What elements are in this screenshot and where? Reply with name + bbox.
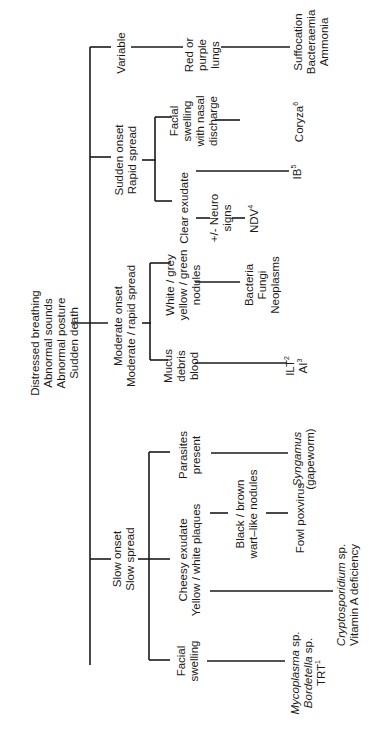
footnote: 1 [314, 660, 321, 664]
root-line: Distressed breathing [29, 290, 42, 395]
label-line: Slow onset [111, 527, 124, 590]
label-line: Clear exudate [178, 172, 191, 244]
fowl-poxvirus-label: Fowl poxvirus [294, 483, 307, 553]
root-line: Sudden death [68, 290, 81, 395]
neuro-signs-label: +/- Neuro signs [208, 194, 234, 242]
cheesy-exudate-label: Cheesy exudate Yellow / white plaques [177, 504, 203, 617]
label-line: Syngamus [291, 428, 304, 489]
cause-suffix: sp. [302, 638, 314, 657]
label-line: swelling [188, 641, 201, 682]
label-line: Rapid spread [126, 125, 139, 196]
label-line: Fungi [256, 256, 269, 314]
label-line: signs [221, 194, 234, 242]
label-line: Cryptosporidium sp. [335, 544, 348, 646]
label-line: Moderate onset [112, 265, 125, 387]
label-line: Parasites [177, 431, 190, 479]
label-line: Fowl poxvirus [294, 483, 307, 553]
slow-onset-label: Slow onset Slow spread [111, 527, 137, 590]
label-line: Mucus [162, 349, 175, 383]
cause-text: Coryza [293, 106, 305, 142]
moderate-onset-label: Moderate onset Moderate / rapid spread [112, 265, 138, 387]
cause-text: IB [291, 169, 303, 180]
label-line: Mycoplasma sp. [289, 631, 302, 714]
ilt-ai-label: ILT2 AI3 [284, 356, 310, 376]
label-line: AI3 [297, 356, 310, 376]
clear-exudate-label: Clear exudate [178, 172, 191, 244]
label-line: Suffocation [292, 10, 305, 75]
label-line: with nasal [194, 95, 207, 146]
label-line: Coryza6 [293, 102, 306, 142]
label-line: (gapeworm) [304, 428, 317, 489]
cause-suffix: sp. [335, 544, 347, 563]
cause-text: ILT [284, 360, 296, 376]
label-line: discharge [207, 95, 220, 146]
black-brown-nodules-label: Black / brown wart–like nodules [234, 470, 260, 559]
label-line: Bacteria [243, 256, 256, 314]
label-line: Vitamin A deficiency [348, 544, 361, 646]
footnote: 6 [292, 102, 299, 106]
label-line: Variable [115, 32, 128, 73]
cause-text: TRT [315, 664, 327, 686]
root-symptoms: Distressed breathing Abnormal sounds Abn… [29, 290, 81, 395]
label-line: blood [188, 349, 201, 383]
footnote: 2 [283, 356, 290, 360]
root-line: Abnormal posture [55, 290, 68, 395]
label-line: Facial [168, 95, 181, 146]
label-line: Ammonia [318, 10, 331, 75]
facial-nasal-label: Facial swelling with nasal discharge [168, 95, 220, 146]
cause-suffix: sp. [289, 631, 301, 650]
label-line: Cheesy exudate [177, 504, 190, 617]
label-line: Moderate / rapid spread [125, 265, 138, 387]
label-line: ILT2 [284, 356, 297, 376]
cause-text: NDV [248, 209, 260, 233]
label-line: Slow spread [124, 527, 137, 590]
label-line: lungs [209, 38, 222, 73]
label-line: wart–like nodules [247, 470, 260, 559]
ndv-label: NDV4 [248, 205, 261, 233]
nodules-label: White / grey yellow / green nodules [164, 250, 203, 321]
mucus-label: Mucus debris blood [162, 349, 201, 383]
bacteria-fungi-label: Bacteria Fungi Neoplasms [243, 256, 282, 314]
mycoplasma-label: Mycoplasma sp. Bordetella sp. TRT1 [289, 631, 328, 714]
label-line: Neoplasms [269, 256, 282, 314]
label-line: NDV4 [248, 205, 261, 233]
label-line: IB5 [291, 165, 304, 180]
label-line: Facial [175, 641, 188, 682]
label-line: Bacteraemia [305, 10, 318, 75]
facial-swelling-label: Facial swelling [175, 641, 201, 682]
label-line: swelling [181, 95, 194, 146]
cause-text: Mycoplasma [289, 650, 301, 715]
footnote: 4 [247, 205, 254, 209]
parasites-label: Parasites present [177, 431, 203, 479]
label-line: Bordetella sp. [302, 631, 315, 714]
label-line: Sudden onset [113, 125, 126, 196]
label-line: Red or [183, 38, 196, 73]
crypto-vita-label: Cryptosporidium sp. Vitamin A deficiency [335, 544, 361, 646]
label-line: present [190, 431, 203, 479]
variable-label: Variable [115, 32, 128, 73]
variable-causes: Suffocation Bacteraemia Ammonia [292, 10, 331, 75]
red-purple-lungs-label: Red or purple lungs [183, 38, 222, 73]
label-line: debris [175, 349, 188, 383]
cause-text: Cryptosporidium [335, 562, 347, 646]
root-line: Abnormal sounds [42, 290, 55, 395]
ib-label: IB5 [291, 165, 304, 180]
label-line: Yellow / white plaques [190, 504, 203, 617]
label-line: nodules [190, 250, 203, 321]
sudden-onset-label: Sudden onset Rapid spread [113, 125, 139, 196]
label-line: purple [196, 38, 209, 73]
label-line: +/- Neuro [208, 194, 221, 242]
syngamus-label: Syngamus (gapeworm) [291, 428, 317, 489]
footnote: 5 [290, 165, 297, 169]
label-line: TRT1 [315, 631, 328, 714]
cause-text: Bordetella [302, 656, 314, 708]
cause-text: AI [297, 363, 309, 374]
coryza-label: Coryza6 [293, 102, 306, 142]
label-line: Black / brown [234, 470, 247, 559]
label-line: White / grey [164, 250, 177, 321]
footnote: 3 [296, 359, 303, 363]
label-line: yellow / green [177, 250, 190, 321]
